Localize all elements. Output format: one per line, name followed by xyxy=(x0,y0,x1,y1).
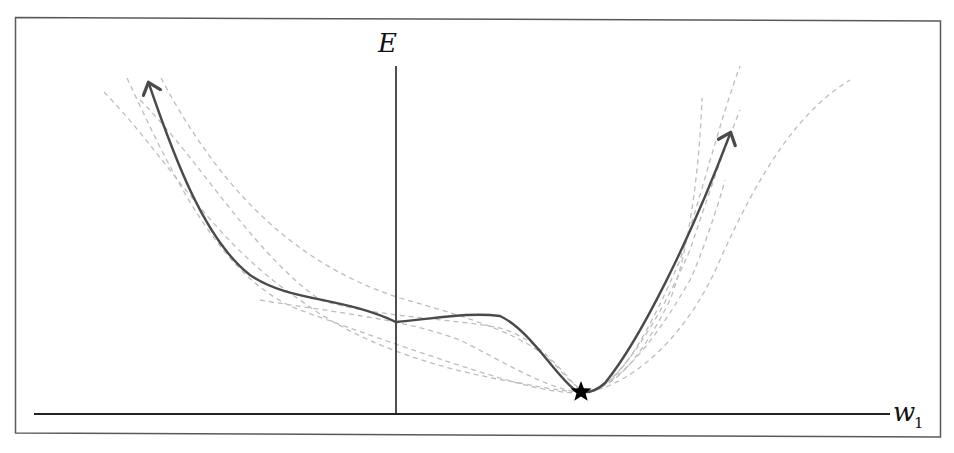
dashed-curve-2 xyxy=(127,66,740,393)
error-surface-figure: E w 1 xyxy=(0,0,954,453)
x-axis-label-subscript: 1 xyxy=(914,414,924,432)
figure-frame xyxy=(16,18,941,438)
dashed-curve-3 xyxy=(161,78,740,391)
global-minimum-star-icon xyxy=(571,381,592,401)
dashed-curve-5 xyxy=(260,180,725,392)
dashed-approximation-curves xyxy=(104,66,850,393)
true-error-curve xyxy=(149,84,730,392)
x-axis-label: w xyxy=(893,397,915,427)
dashed-curve-4 xyxy=(140,98,702,390)
y-axis-label: E xyxy=(377,28,397,58)
